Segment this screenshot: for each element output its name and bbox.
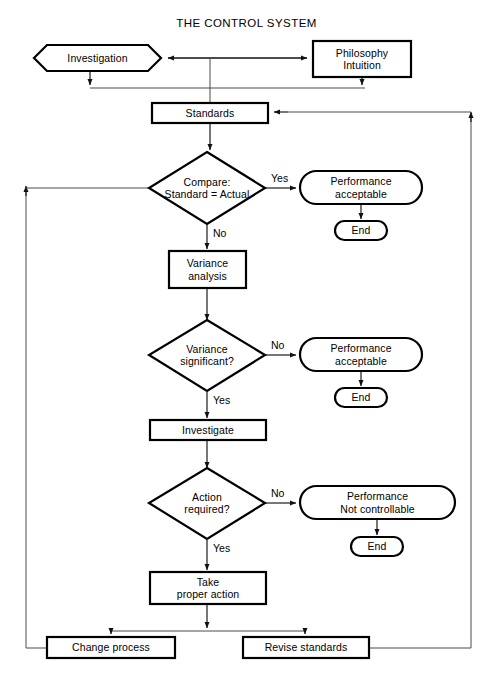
node-standards-shape xyxy=(152,103,268,123)
edge-label-variance-no: No xyxy=(271,339,284,351)
node-action-required-shape xyxy=(149,468,265,539)
node-variance-analysis-shape xyxy=(169,251,246,288)
edge-label-compare-no: No xyxy=(213,227,226,239)
node-performance-acceptable-2-shape xyxy=(300,338,422,371)
node-investigate-shape xyxy=(150,420,266,440)
node-compare-shape xyxy=(149,152,265,224)
node-investigation-shape xyxy=(34,45,161,71)
node-end-2-shape xyxy=(335,388,387,407)
edge-label-action-no: No xyxy=(271,487,284,499)
edge-change-process-return xyxy=(26,186,148,648)
edge-take-action-split xyxy=(111,604,305,634)
node-philosophy-shape xyxy=(313,41,411,77)
node-revise-standards-shape xyxy=(243,637,369,658)
edge-label-action-yes: Yes xyxy=(213,542,230,554)
node-end-3-shape xyxy=(351,537,403,556)
node-performance-acceptable-1-shape xyxy=(300,171,422,204)
flowchart-connectors-and-shapes xyxy=(0,0,493,678)
node-end-1-shape xyxy=(335,221,387,240)
node-change-process-shape xyxy=(47,637,175,658)
node-performance-not-controllable-shape xyxy=(300,486,455,519)
node-variance-significant-shape xyxy=(149,320,265,391)
edge-label-compare-yes: Yes xyxy=(271,172,288,184)
edge-label-variance-yes: Yes xyxy=(213,394,230,406)
flowchart-canvas: THE CONTROL SYSTEM xyxy=(0,0,493,678)
node-take-proper-action-shape xyxy=(150,572,266,604)
